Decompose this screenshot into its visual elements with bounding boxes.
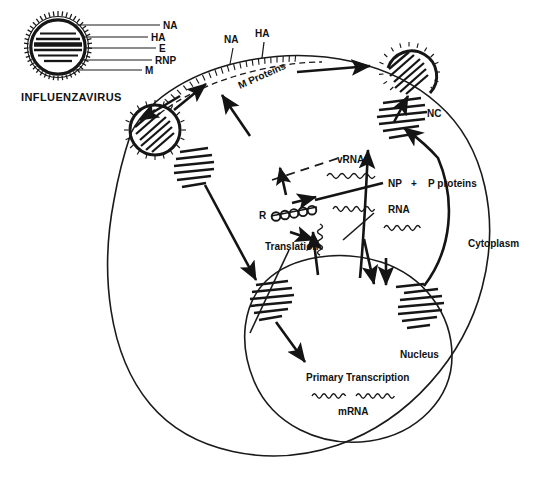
virion-label-ha: HA bbox=[151, 32, 165, 43]
label-cytoplasm: Cytoplasm bbox=[468, 238, 519, 249]
nucleocapsid-nc-cluster bbox=[377, 98, 427, 138]
arrow-down-to-nucleus-right bbox=[364, 239, 374, 284]
label-rna: RNA bbox=[388, 204, 410, 215]
mrna-squiggle-icon-1 bbox=[312, 394, 346, 399]
np-line bbox=[315, 183, 383, 200]
arrow-to-rna-lower bbox=[290, 232, 314, 240]
rnp-segments-icon bbox=[34, 34, 82, 62]
membrane-label-m-proteins: M Proteins bbox=[236, 60, 288, 91]
rna-squiggle-icon-1 bbox=[333, 207, 375, 212]
arrow-vrna-up bbox=[280, 168, 286, 195]
arrow-up-to-m-proteins bbox=[222, 95, 250, 136]
arrow-to-rna-upper bbox=[292, 197, 316, 203]
virion-label-m: M bbox=[145, 65, 153, 76]
rnp-cluster-cytoplasm bbox=[174, 148, 214, 187]
virion-label-e: E bbox=[159, 43, 166, 54]
arrow-into-nucleus bbox=[276, 322, 305, 362]
label-np: NP bbox=[388, 178, 402, 189]
polysome-icon bbox=[271, 206, 317, 221]
label-nucleus: Nucleus bbox=[400, 349, 439, 360]
rnp-cluster-in-nucleus bbox=[396, 284, 444, 328]
virion-label-na: NA bbox=[163, 20, 177, 31]
label-plus: + bbox=[411, 178, 417, 189]
budding-virion bbox=[379, 42, 440, 94]
label-primary-transcription: Primary Transcription bbox=[306, 372, 409, 383]
figure-canvas: NA HA E RNP M INFLUENZAVIRUS bbox=[0, 0, 558, 490]
influenza-replication-diagram: NA HA E RNP M INFLUENZAVIRUS bbox=[0, 0, 558, 490]
rna-link-line bbox=[343, 213, 374, 240]
arrow-rnp-to-nucleus bbox=[205, 185, 256, 280]
arrow-membrane-to-budding bbox=[297, 66, 370, 72]
arrow-nucleus-to-nc bbox=[404, 128, 449, 286]
mrna-squiggle-icon-2 bbox=[356, 394, 394, 399]
membrane-label-na: NA bbox=[224, 34, 238, 45]
membrane-ha-leader bbox=[262, 42, 264, 58]
label-p-proteins: P proteins bbox=[428, 178, 477, 189]
label-mrna: mRNA bbox=[338, 406, 369, 417]
membrane-label-ha: HA bbox=[255, 28, 269, 39]
label-nc: NC bbox=[427, 108, 441, 119]
label-ribosome: R bbox=[259, 210, 267, 221]
virion-key-caption: INFLUENZAVIRUS bbox=[21, 91, 122, 103]
label-vrna: vRNA bbox=[337, 154, 364, 165]
rna-squiggle-icon-2 bbox=[384, 226, 420, 231]
membrane-na-leader bbox=[230, 48, 233, 64]
label-translation: Translation bbox=[265, 241, 318, 252]
virion-label-rnp: RNP bbox=[155, 55, 176, 66]
